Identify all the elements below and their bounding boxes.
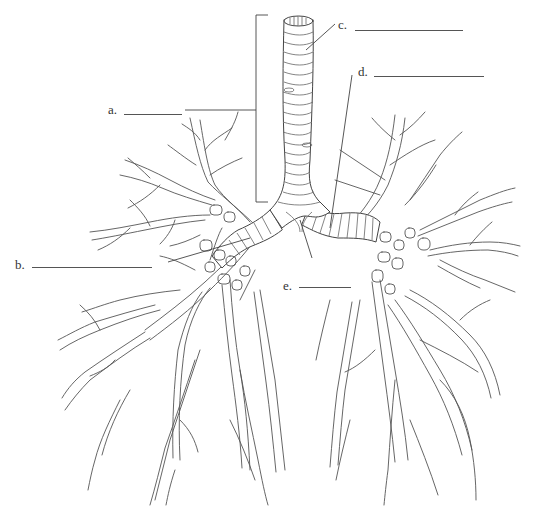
left-bronchial-branches <box>58 112 285 505</box>
label-c-answer-blank[interactable] <box>355 30 463 31</box>
label-b: b. <box>15 258 25 271</box>
trachea <box>270 16 330 232</box>
label-a-bracket <box>256 15 268 202</box>
label-d-pointer <box>330 75 352 228</box>
label-d-answer-blank[interactable] <box>374 76 484 77</box>
bronchial-tree-drawing <box>0 0 540 527</box>
label-e: e. <box>283 279 292 292</box>
label-a-answer-blank[interactable] <box>124 114 182 115</box>
label-c: c. <box>338 18 347 31</box>
label-e-answer-blank[interactable] <box>299 287 351 288</box>
right-bronchial-branches <box>316 112 520 505</box>
label-d: d. <box>358 65 368 78</box>
bronchial-tree-diagram: a. b. c. d. e. <box>0 0 540 527</box>
label-a: a. <box>108 103 117 116</box>
label-b-answer-blank[interactable] <box>32 267 152 268</box>
